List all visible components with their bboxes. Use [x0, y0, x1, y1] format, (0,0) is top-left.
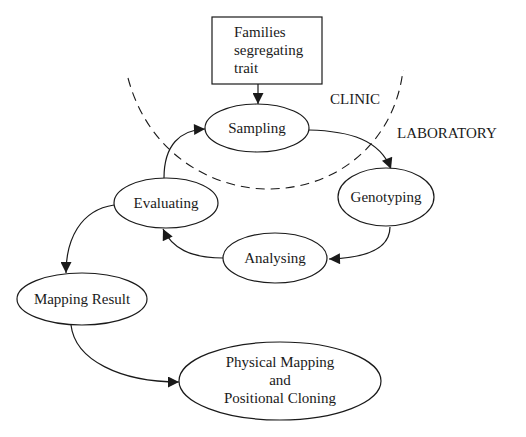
region-label-laboratory: LABORATORY [397, 125, 497, 141]
genotyping-label: Genotyping [351, 189, 422, 205]
region-label-clinic: CLINIC [330, 91, 380, 107]
edge-mapping-result-to-physical-mapping [71, 325, 179, 382]
node-analysing: Analysing [223, 233, 327, 283]
edge-genotyping-to-analysing [329, 227, 390, 259]
physical-mapping-line-3: Positional Cloning [224, 390, 337, 406]
edge-evaluating-to-mapping-result [66, 205, 114, 273]
families-line-3: trait [234, 60, 259, 76]
node-mapping-result: Mapping Result [17, 273, 147, 325]
analysing-label: Analysing [244, 250, 306, 266]
mapping-result-label: Mapping Result [34, 291, 131, 307]
node-families-segregating-trait: Families segregating trait [212, 17, 322, 84]
workflow-diagram: CLINIC LABORATORY Families segregating t… [0, 0, 526, 437]
physical-mapping-line-1: Physical Mapping [226, 354, 335, 370]
node-physical-mapping-positional-cloning: Physical Mapping and Positional Cloning [179, 342, 381, 420]
families-line-1: Families [234, 24, 286, 40]
evaluating-label: Evaluating [134, 195, 199, 211]
node-genotyping: Genotyping [338, 168, 434, 226]
sampling-label: Sampling [228, 120, 286, 136]
families-line-2: segregating [234, 42, 304, 58]
physical-mapping-line-2: and [269, 372, 291, 388]
node-sampling: Sampling [205, 104, 309, 152]
edge-analysing-to-evaluating [163, 229, 223, 258]
node-evaluating: Evaluating [114, 178, 218, 228]
edge-sampling-to-genotyping [309, 130, 391, 169]
